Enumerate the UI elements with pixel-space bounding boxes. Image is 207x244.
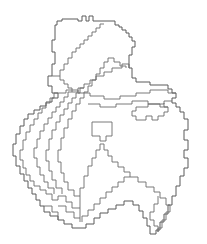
boundary-map-svg: Outline map of an administrative region … bbox=[0, 0, 207, 244]
map-figure: Outline map of an administrative region … bbox=[0, 0, 207, 244]
